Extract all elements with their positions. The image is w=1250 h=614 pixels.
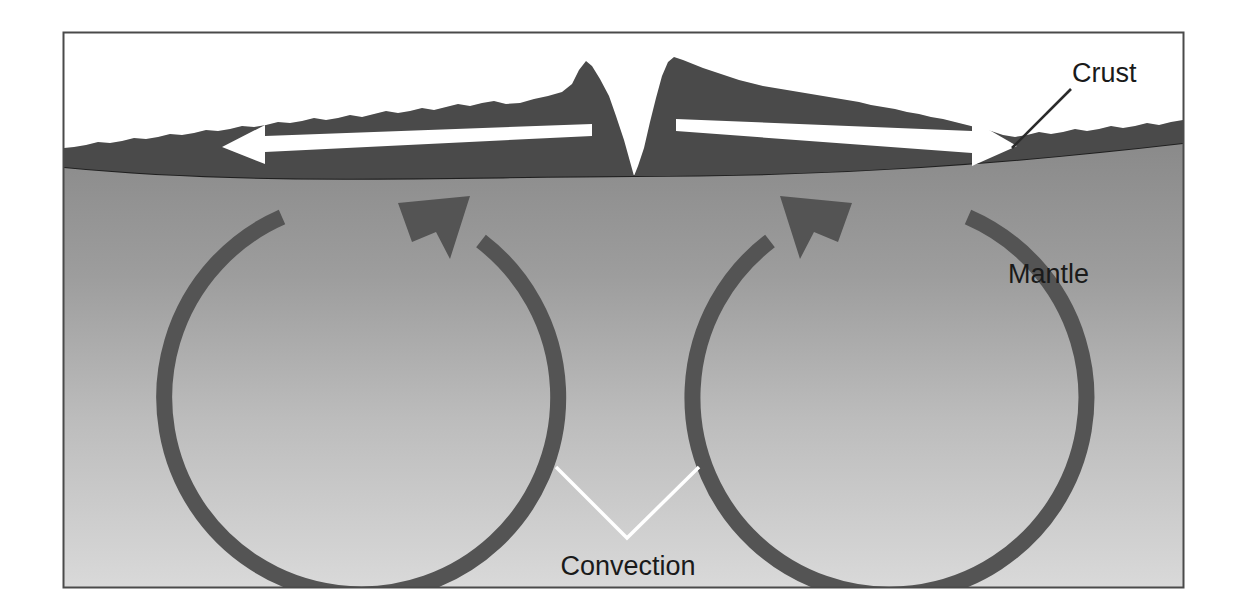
crust-label: Crust bbox=[1072, 58, 1137, 88]
mantle-label: Mantle bbox=[1008, 259, 1089, 289]
seafloor-spreading-diagram: Crust Mantle Convection bbox=[0, 0, 1250, 614]
diagram-figure: Crust Mantle Convection bbox=[0, 0, 1250, 614]
mantle-layer bbox=[64, 143, 1183, 587]
convection-label: Convection bbox=[560, 551, 695, 581]
diagram-content: Crust Mantle Convection bbox=[64, 33, 1183, 595]
